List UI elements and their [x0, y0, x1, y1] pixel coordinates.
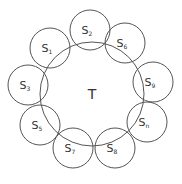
satellite-label-7: S7: [65, 142, 76, 155]
satellite-label-6: S6: [117, 37, 128, 50]
satellite-label-8: S8: [107, 142, 118, 155]
satellite-label-1: S1: [42, 42, 53, 55]
satellite-label-5: S5: [32, 119, 43, 132]
satellite-label-2: S2: [82, 24, 93, 37]
satellite-label-3: S3: [20, 79, 31, 92]
venn-diagram: T S2S1S6S3S9S5SnS7S8: [0, 0, 182, 184]
satellite-label-n: Sn: [139, 116, 150, 129]
center-label: T: [87, 86, 97, 102]
satellite-label-9: S9: [145, 76, 156, 89]
